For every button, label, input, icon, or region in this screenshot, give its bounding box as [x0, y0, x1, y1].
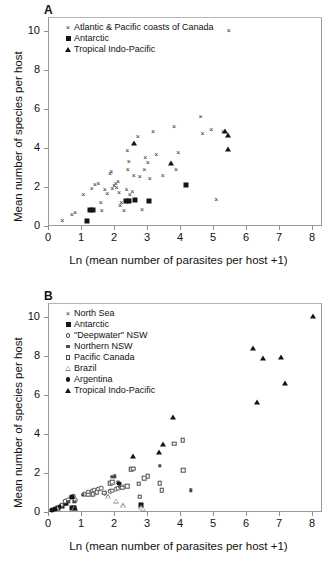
data-point: [120, 485, 125, 490]
legend-symbol: [62, 355, 74, 360]
data-point: [131, 140, 137, 145]
data-point: ×: [99, 198, 103, 205]
legend-label: Tropical Indo-Pacific: [74, 44, 155, 54]
marker-cross-icon: ×: [66, 310, 70, 317]
y-axis-tick: [44, 395, 48, 396]
data-point: ×: [81, 191, 85, 198]
data-point: ×: [146, 158, 150, 165]
data-point: ×: [109, 168, 113, 175]
marker-square-open-icon: [66, 355, 71, 360]
data-point: ×: [172, 122, 176, 129]
x-axis-label-a: Ln (mean number of parasites per host +1…: [12, 254, 333, 266]
data-point: [72, 506, 78, 511]
legend-label: Antarctic: [74, 319, 109, 329]
x-axis-tick: [180, 226, 181, 230]
data-point: ×: [138, 173, 142, 180]
y-axis-tick: [44, 31, 48, 32]
data-point: ×: [176, 148, 180, 155]
legend-item: Northern NSW: [62, 341, 155, 352]
data-point: ×: [151, 127, 155, 134]
x-axis-label-b: Ln (mean number of parasites per host +1…: [12, 540, 333, 552]
data-point: ×: [117, 189, 121, 196]
y-axis-label-b: Mean number of species per host: [12, 337, 24, 508]
y-axis-tick: [44, 434, 48, 435]
data-point: ×: [60, 217, 64, 224]
marker-square-filled-icon: [66, 36, 71, 41]
legend-label: "Deepwater" NSW: [74, 330, 147, 340]
y-axis-tick-label: 4: [20, 141, 40, 153]
marker-triangle-filled-icon: [65, 47, 71, 52]
data-point: [113, 475, 116, 478]
data-point: [73, 500, 76, 503]
x-axis-tick-label: 2: [104, 517, 124, 529]
data-point: [254, 400, 260, 405]
marker-cross-icon: ×: [66, 24, 70, 31]
data-point: ×: [122, 206, 126, 213]
y-axis-label-a: Mean number of species per host: [12, 51, 24, 222]
x-axis-tick-label: 4: [170, 517, 190, 529]
legend-b: ×North SeaAntarctic"Deepwater" NSWNorthe…: [62, 308, 155, 396]
legend-label: Brazil: [74, 363, 97, 373]
data-point: [136, 481, 141, 486]
data-point: [120, 503, 126, 508]
x-axis-tick-label: 0: [38, 231, 58, 243]
data-point: ×: [100, 206, 104, 213]
data-point: [57, 504, 62, 509]
data-point: [158, 464, 161, 467]
data-point: [140, 506, 146, 511]
legend-label: Argentina: [74, 374, 113, 384]
data-point: ×: [130, 187, 134, 194]
data-point: ×: [174, 166, 178, 173]
legend-symbol: [62, 36, 74, 41]
data-point: [105, 494, 111, 499]
x-axis-tick: [279, 512, 280, 516]
data-point: ×: [140, 206, 144, 213]
data-point: ×: [148, 175, 152, 182]
y-axis-tick: [44, 226, 48, 227]
x-axis-tick: [81, 512, 82, 516]
data-point: [160, 442, 166, 447]
x-axis-tick-label: 6: [236, 517, 256, 529]
y-axis-tick: [44, 473, 48, 474]
data-point: [183, 182, 188, 187]
data-point: [180, 438, 185, 443]
data-point: [67, 500, 70, 503]
y-axis-tick-label: 2: [20, 466, 40, 478]
legend-item: Antarctic: [62, 33, 214, 44]
data-point: ×: [227, 27, 231, 34]
y-axis-tick: [44, 109, 48, 110]
x-axis-tick-label: 7: [269, 517, 289, 529]
y-axis-tick: [44, 148, 48, 149]
data-point: ×: [132, 172, 136, 179]
marker-square-filled-icon: [66, 322, 71, 327]
data-point: ×: [209, 126, 213, 133]
data-point: [125, 484, 130, 489]
x-axis-tick: [213, 226, 214, 230]
data-point: [145, 474, 150, 479]
data-point: ×: [96, 179, 100, 186]
data-point: [250, 345, 256, 350]
data-point: ×: [161, 171, 165, 178]
y-axis-tick: [44, 187, 48, 188]
legend-item: "Deepwater" NSW: [62, 330, 155, 341]
legend-symbol: [62, 345, 74, 348]
data-point: ×: [125, 146, 129, 153]
y-axis-tick-label: 8: [20, 63, 40, 75]
y-axis-tick-label: 10: [20, 24, 40, 36]
marker-triangle-filled-icon: [65, 388, 71, 393]
legend-symbol: [62, 322, 74, 327]
legend-item: ×North Sea: [62, 308, 155, 319]
data-point: ×: [200, 130, 204, 137]
figure-two-panel-scatter: A Mean number of species per host Ln (me…: [0, 0, 333, 572]
legend-symbol: [62, 333, 74, 338]
x-axis-tick-label: 4: [170, 231, 190, 243]
panel-b-letter: B: [44, 289, 53, 303]
data-point: [278, 354, 284, 359]
data-point: [84, 219, 89, 224]
data-point: [69, 494, 74, 499]
x-axis-tick-label: 1: [71, 231, 91, 243]
legend-symbol: [62, 388, 74, 393]
y-axis-tick-label: 0: [20, 219, 40, 231]
panel-a: A Mean number of species per host Ln (me…: [0, 0, 333, 286]
data-point: [130, 453, 136, 458]
